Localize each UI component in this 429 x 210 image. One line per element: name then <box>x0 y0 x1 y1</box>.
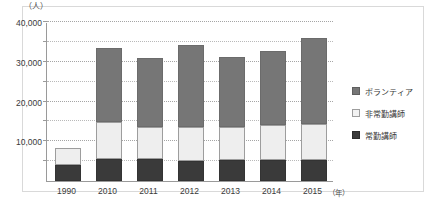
bar-1990[interactable] <box>55 148 81 181</box>
y-axis-unit-label: （人） <box>24 0 48 11</box>
plot-area <box>46 23 333 182</box>
bar-segment-full-2012 <box>178 161 204 181</box>
bar-segment-part-2013 <box>219 127 245 160</box>
bar-segment-vol-2015 <box>301 38 327 124</box>
legend-label-volunteer: ボランティア <box>365 86 413 97</box>
chart-legend: ボランティア 非常勤講師 常勤講師 <box>352 80 428 146</box>
y-axis-tick-label: 30,000 <box>0 58 42 68</box>
legend-swatch-full-time-icon <box>352 131 360 139</box>
y-axis-tick-label: 10,000 <box>0 137 42 147</box>
x-axis-tick-label-2011: 2011 <box>139 186 157 196</box>
legend-item-part-time-instructor[interactable]: 非常勤講師 <box>352 102 428 124</box>
bar-segment-full-2015 <box>301 160 327 181</box>
chart-root: （人） 10,00020,00030,00040,000 19902010201… <box>0 0 429 210</box>
y-axis-tick <box>43 101 47 102</box>
x-axis-tick-label-2015: 2015 <box>303 186 322 196</box>
bar-segment-full-2014 <box>260 160 286 181</box>
legend-label-part-time-instructor: 非常勤講師 <box>365 108 405 119</box>
bar-segment-part-1990 <box>55 148 81 165</box>
bar-2015[interactable] <box>301 38 327 181</box>
legend-item-full-time-instructor[interactable]: 常勤講師 <box>352 124 428 146</box>
x-axis-tick-label-1990: 1990 <box>57 186 76 196</box>
legend-item-volunteer[interactable]: ボランティア <box>352 80 428 102</box>
x-axis-tick-label-2013: 2013 <box>221 186 240 196</box>
bar-segment-vol-2014 <box>260 51 286 126</box>
bar-2010[interactable] <box>96 48 122 181</box>
bar-segment-vol-2010 <box>96 48 122 122</box>
bar-segment-part-2015 <box>301 124 327 160</box>
bar-segment-part-2010 <box>96 122 122 159</box>
x-axis-unit-label: （年） <box>328 187 349 198</box>
legend-swatch-part-time-icon <box>352 109 360 117</box>
gridline-minor <box>47 41 333 42</box>
x-axis-tick-label-2012: 2012 <box>180 186 199 196</box>
bar-segment-vol-2011 <box>137 58 163 128</box>
x-axis-tick-label-2014: 2014 <box>262 186 281 196</box>
bar-segment-part-2011 <box>137 127 163 159</box>
y-axis-tick <box>43 81 47 82</box>
y-axis-tick <box>43 41 47 42</box>
y-axis-tick <box>43 140 47 141</box>
bar-segment-full-1990 <box>55 165 81 181</box>
bar-2013[interactable] <box>219 57 245 181</box>
bar-segment-full-2011 <box>137 159 163 181</box>
y-axis-tick <box>43 120 47 121</box>
y-axis-tick-label: 20,000 <box>0 98 42 108</box>
bar-2014[interactable] <box>260 51 286 181</box>
y-axis-tick-label: 40,000 <box>0 18 42 28</box>
y-axis-tick <box>43 21 47 22</box>
bar-2011[interactable] <box>137 58 163 181</box>
gridline-major <box>47 21 333 22</box>
y-axis-tick <box>43 61 47 62</box>
legend-label-full-time-instructor: 常勤講師 <box>365 130 397 141</box>
y-axis-tick <box>43 160 47 161</box>
bar-2012[interactable] <box>178 45 204 181</box>
legend-swatch-volunteer-icon <box>352 87 360 95</box>
bar-segment-part-2012 <box>178 127 204 161</box>
x-axis-tick-label-2010: 2010 <box>98 186 117 196</box>
bar-segment-full-2013 <box>219 160 245 181</box>
bar-segment-vol-2012 <box>178 45 204 127</box>
bar-segment-full-2010 <box>96 159 122 181</box>
bar-segment-vol-2013 <box>219 57 245 127</box>
bar-segment-part-2014 <box>260 125 286 160</box>
